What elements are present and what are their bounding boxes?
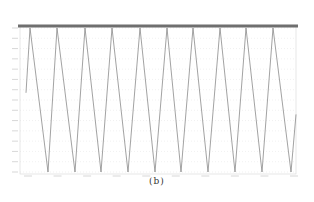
y-axis-ticks bbox=[12, 28, 18, 172]
waveform-line bbox=[26, 28, 296, 172]
gridlines bbox=[20, 28, 296, 172]
figure-caption: (b) bbox=[0, 176, 314, 186]
header-bar bbox=[18, 25, 298, 28]
waveform-chart bbox=[0, 0, 314, 202]
